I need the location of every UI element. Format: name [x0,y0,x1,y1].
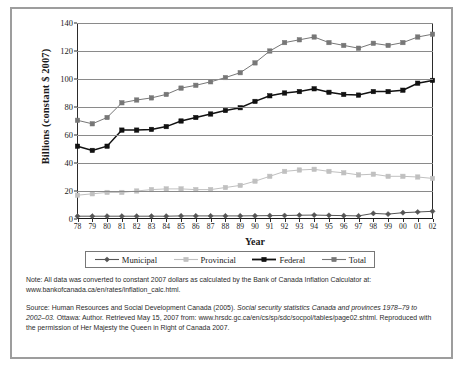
data-point-marker [331,257,335,261]
legend-item-provincial[interactable]: Provincial [173,255,236,265]
y-tick-label: 0 [69,214,73,224]
x-tick-label: 85 [177,222,185,231]
x-tick-label: 01 [414,222,422,231]
legend-item-federal[interactable]: Federal [251,255,305,265]
notes-block: Note: All data was converted to constant… [26,275,438,334]
x-tick-label: 95 [325,222,333,231]
x-tick-label: 92 [281,222,289,231]
legend-label: Total [349,255,367,265]
legend-label: Provincial [201,255,236,265]
y-tick-mark [74,107,77,108]
x-tick-label: 81 [118,222,126,231]
legend-label: Municipal [122,255,157,265]
y-tick-mark [74,23,77,24]
gridline [77,163,433,164]
y-tick-label: 100 [60,74,73,84]
y-tick-label: 140 [60,18,73,28]
x-tick-label: 80 [103,222,111,231]
source-paragraph: Source: Human Resources and Social Devel… [26,303,438,334]
x-tick-label: 84 [162,222,170,231]
x-tick-label: 90 [251,222,259,231]
y-tick-label: 120 [60,46,73,56]
legend-swatch-provincial [173,255,199,264]
x-tick-label: 82 [133,222,141,231]
gridline [77,23,433,24]
x-axis-title: Year [77,236,433,247]
gridline [77,135,433,136]
x-tick-label: 98 [370,222,378,231]
x-tick-label: 87 [207,222,215,231]
x-tick-label: 00 [399,222,407,231]
y-tick-label: 80 [65,102,74,112]
data-point-marker [183,257,187,261]
legend-item-total[interactable]: Total [321,255,367,265]
x-tick-label: 94 [310,222,318,231]
x-tick-label: 93 [296,222,304,231]
x-tick-label: 97 [355,222,363,231]
x-tick-label: 79 [88,222,96,231]
x-tick-label: 88 [222,222,230,231]
y-tick-label: 20 [65,186,74,196]
y-tick-mark [74,191,77,192]
source-tail: Ottawa: Author. Retrieved May 15, 2007 f… [26,314,431,331]
note-paragraph: Note: All data was converted to constant… [26,275,438,296]
legend-swatch-municipal [94,255,120,264]
x-tick-label: 96 [340,222,348,231]
y-tick-mark [74,163,77,164]
legend-swatch-total [321,255,347,264]
legend-item-municipal[interactable]: Municipal [94,255,157,265]
x-tick-label: 99 [384,222,392,231]
plot-wrapper: 0204060801001201407879808182838485868788… [77,23,433,219]
y-tick-mark [74,135,77,136]
data-point-marker [262,257,266,261]
x-tick-label: 89 [236,222,244,231]
x-tick-label: 91 [266,222,274,231]
y-tick-label: 40 [65,158,74,168]
y-tick-mark [74,51,77,52]
gridline [77,51,433,52]
source-lead: Source: Human Resources and Social Devel… [26,304,237,311]
y-axis-title: Billions (constant $ 2007) [40,12,51,202]
chart-region: Billions (constant $ 2007) 0204060801001… [12,9,451,271]
y-tick-mark [74,79,77,80]
figure-frame: Billions (constant $ 2007) 0204060801001… [10,7,453,359]
gridline [77,191,433,192]
x-tick-label: 78 [74,222,82,231]
plot-area [77,23,433,219]
chart-legend: MunicipalProvincialFederalTotal [85,251,375,268]
y-tick-label: 60 [65,130,74,140]
legend-swatch-federal [251,255,277,264]
gridline [77,107,433,108]
data-point-marker [104,257,109,262]
gridline [77,79,433,80]
legend-label: Federal [279,255,305,265]
x-tick-label: 86 [192,222,200,231]
x-tick-label: 83 [148,222,156,231]
x-tick-label: 02 [429,222,437,231]
